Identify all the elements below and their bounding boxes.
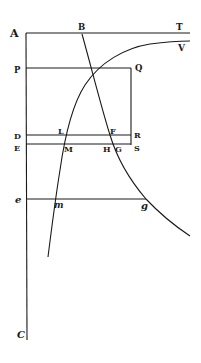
label-P: P <box>14 65 21 75</box>
geometric-diagram: A B T V P Q D L F R E M H G S e m g C <box>0 0 201 363</box>
label-A: A <box>9 27 19 40</box>
label-V: V <box>177 43 186 53</box>
line-AC <box>26 33 27 340</box>
label-Q: Q <box>135 63 143 73</box>
label-G: G <box>115 144 122 154</box>
label-M: M <box>64 144 73 154</box>
label-g: g <box>141 200 148 211</box>
label-E: E <box>14 143 20 153</box>
label-m: m <box>54 200 64 210</box>
label-e: e <box>15 194 21 205</box>
label-S: S <box>134 143 140 153</box>
label-H: H <box>103 144 111 154</box>
label-F: F <box>110 126 116 136</box>
label-T: T <box>176 22 183 32</box>
label-B: B <box>78 22 85 32</box>
label-L: L <box>58 126 64 136</box>
label-C: C <box>17 329 25 340</box>
label-D: D <box>14 131 21 141</box>
label-R: R <box>134 130 141 140</box>
